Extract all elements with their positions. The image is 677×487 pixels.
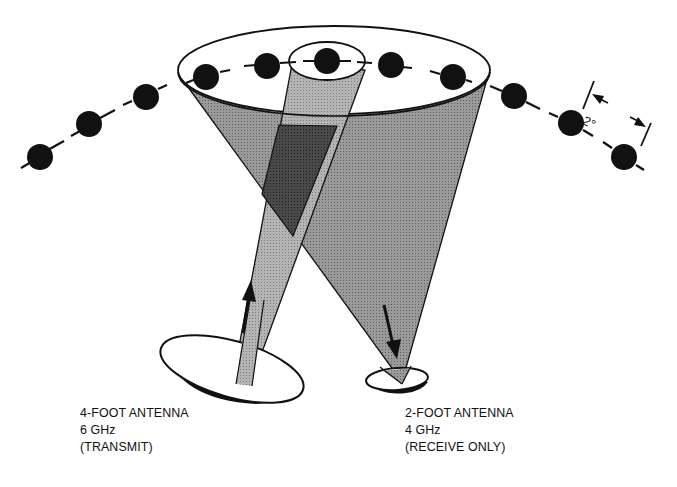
satellite-2 — [76, 111, 102, 137]
transmit-antenna-dish — [153, 300, 311, 416]
satellite-6 — [314, 48, 340, 74]
satellite-9 — [501, 83, 527, 109]
satellite-8 — [440, 64, 466, 90]
receive-antenna-size: 2-FOOT ANTENNA — [405, 404, 514, 421]
transmit-antenna-size: 4-FOOT ANTENNA — [80, 404, 189, 421]
receive-antenna-label: 2-FOOT ANTENNA 4 GHz (RECEIVE ONLY) — [405, 404, 514, 455]
satellite-11 — [611, 144, 637, 170]
transmit-antenna-frequency: 6 GHz — [80, 421, 189, 438]
satellite-10 — [558, 110, 584, 136]
receive-antenna-frequency: 4 GHz — [405, 421, 514, 438]
satellite-3 — [133, 84, 159, 110]
satellite-7 — [378, 52, 404, 78]
receive-antenna-mode: (RECEIVE ONLY) — [405, 438, 514, 455]
spacing-indicator — [583, 81, 651, 146]
receive-antenna-dish — [365, 366, 428, 394]
transmit-antenna-mode: (TRANSMIT) — [80, 438, 189, 455]
transmit-antenna-label: 4-FOOT ANTENNA 6 GHz (TRANSMIT) — [80, 404, 189, 455]
satellite-4 — [193, 64, 219, 90]
satellite-1 — [27, 144, 53, 170]
satellite-5 — [254, 53, 280, 79]
